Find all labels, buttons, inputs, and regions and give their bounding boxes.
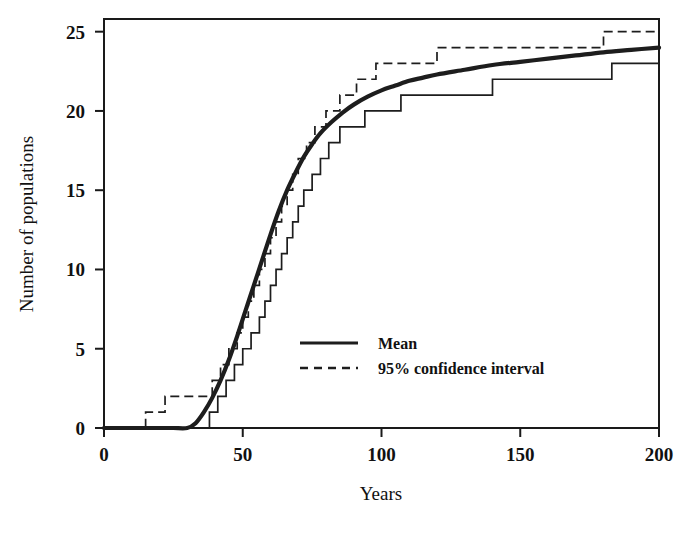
x-tick-label: 0 — [99, 444, 109, 465]
y-tick-label: 10 — [66, 259, 85, 280]
figure-container: 050100150200 0510152025 Mean 95% confide… — [0, 0, 680, 538]
y-tick-label: 25 — [66, 22, 85, 43]
x-tick-label: 150 — [506, 444, 535, 465]
x-axis-tick-labels: 050100150200 — [99, 444, 673, 465]
x-tick-label: 100 — [367, 444, 396, 465]
legend-label-mean: Mean — [378, 335, 417, 352]
y-tick-label: 15 — [66, 180, 85, 201]
chart-legend: Mean 95% confidence interval — [300, 335, 545, 377]
x-tick-label: 50 — [233, 444, 252, 465]
y-tick-label: 0 — [76, 418, 86, 439]
y-axis-tick-labels: 0510152025 — [66, 22, 85, 439]
x-tick-label: 200 — [645, 444, 674, 465]
y-axis-tick-marks — [95, 32, 104, 428]
x-axis-title: Years — [360, 483, 402, 504]
legend-label-confidence-interval: 95% confidence interval — [378, 360, 545, 377]
y-tick-label: 20 — [66, 101, 85, 122]
population-growth-chart: 050100150200 0510152025 Mean 95% confide… — [0, 0, 680, 538]
y-tick-label: 5 — [76, 339, 86, 360]
y-axis-title: Number of populations — [16, 136, 37, 312]
